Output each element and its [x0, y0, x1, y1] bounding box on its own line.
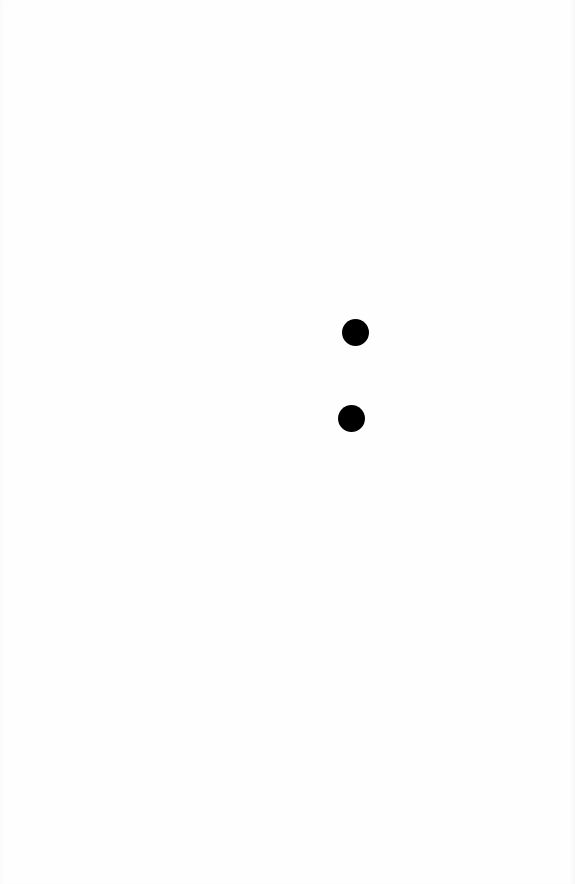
upper-dot	[342, 319, 369, 346]
blank-page	[0, 0, 575, 884]
lower-dot	[338, 405, 365, 432]
